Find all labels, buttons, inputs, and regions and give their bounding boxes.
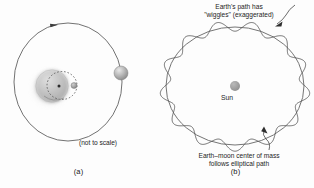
barycenter-annotation-line-1: Earth–moon center of mass bbox=[163, 152, 314, 160]
barycenter-leader-arrow-icon bbox=[261, 127, 267, 134]
wiggle-annotation: Earth's path has "wiggles" (exaggerated) bbox=[165, 3, 313, 20]
panel-a: (not to scale) (a) bbox=[0, 0, 157, 188]
panel-b-caption: (b) bbox=[157, 167, 314, 176]
moon-sphere bbox=[71, 83, 77, 89]
sun-sphere-panel-a bbox=[114, 66, 128, 80]
panel-a-graphics bbox=[0, 0, 157, 188]
panel-b: Earth's path has "wiggles" (exaggerated)… bbox=[157, 0, 314, 188]
sun-label: Sun bbox=[192, 94, 262, 101]
sun-sphere-panel-b bbox=[230, 81, 240, 91]
panel-a-caption: (a) bbox=[0, 167, 157, 176]
center-of-mass-point bbox=[58, 85, 61, 88]
not-to-scale-note: (not to scale) bbox=[43, 139, 153, 147]
figure-root: (not to scale) (a) E bbox=[0, 0, 314, 188]
wiggle-annotation-line-1: Earth's path has bbox=[165, 3, 313, 11]
wiggle-annotation-line-2: "wiggles" (exaggerated) bbox=[165, 11, 313, 19]
